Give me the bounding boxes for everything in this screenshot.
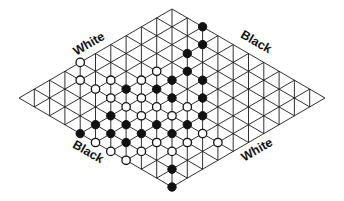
black-stone [107, 129, 115, 137]
white-stone [214, 138, 222, 146]
black-stone [137, 129, 145, 137]
black-stone [168, 183, 176, 191]
white-stone [183, 138, 191, 146]
black-stone [91, 121, 99, 129]
white-stone [122, 156, 130, 164]
white-stone [122, 103, 130, 111]
black-stone [122, 121, 130, 129]
black-stone [198, 23, 206, 31]
black-stone [153, 121, 161, 129]
hex-board [0, 0, 344, 201]
black-stone [168, 94, 176, 102]
white-stone [107, 147, 115, 155]
black-stone [168, 129, 176, 137]
white-stone [198, 129, 206, 137]
white-stone [137, 147, 145, 155]
white-stone [107, 94, 115, 102]
white-stone [137, 112, 145, 120]
black-stone [183, 49, 191, 57]
black-stone [122, 85, 130, 93]
white-stone [168, 112, 176, 120]
black-stone [168, 165, 176, 173]
black-stone [198, 40, 206, 48]
white-stone [107, 76, 115, 84]
white-stone [76, 58, 84, 66]
black-stone [168, 76, 176, 84]
white-stone [76, 76, 84, 84]
black-stone [183, 121, 191, 129]
white-stone [168, 147, 176, 155]
white-stone [137, 94, 145, 102]
black-stone [122, 138, 130, 146]
white-stone [137, 76, 145, 84]
white-stone [153, 67, 161, 75]
white-stone [91, 85, 99, 93]
white-stone [183, 103, 191, 111]
black-stone [198, 94, 206, 102]
black-stone [107, 112, 115, 120]
white-stone [153, 103, 161, 111]
black-stone [153, 85, 161, 93]
white-stone [153, 138, 161, 146]
black-stone [183, 67, 191, 75]
black-stone [198, 76, 206, 84]
black-stone [198, 112, 206, 120]
